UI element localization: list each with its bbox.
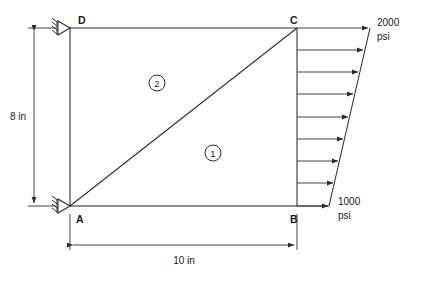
support-hatch-d-1: [52, 18, 57, 22]
node-label-c: C: [290, 14, 298, 26]
dimension-width: [70, 214, 297, 250]
plate-diagram: D C A B 2 1 8 in 10 in 2000 psi 1000 psi: [0, 0, 422, 282]
support-triangle-d: [58, 21, 70, 35]
element-label-1: 1: [210, 148, 215, 159]
support-hatch-a-2: [52, 200, 57, 204]
diagonal-ac: [70, 28, 297, 206]
node-label-b: B: [290, 213, 298, 225]
support-hatch-a-1: [52, 196, 57, 200]
plate-outline: [70, 28, 329, 206]
dimension-label-height: 8 in: [10, 111, 26, 122]
support-hatch-a-4: [52, 208, 57, 212]
support-hatch-d-2: [52, 22, 57, 26]
support-d: [52, 18, 70, 35]
support-hatch-d-4: [52, 30, 57, 34]
pressure-load-bc: [297, 28, 370, 206]
figure-canvas: D C A B 2 1 8 in 10 in 2000 psi 1000 psi: [0, 0, 422, 282]
dimension-label-width: 10 in: [173, 255, 195, 266]
support-triangle-a: [58, 199, 70, 213]
element-label-2: 2: [154, 78, 159, 89]
support-a: [52, 196, 70, 213]
load-label-top-unit: psi: [377, 31, 390, 42]
dimension-height: [28, 28, 56, 206]
load-label-bottom-unit: psi: [338, 210, 351, 221]
node-label-d: D: [78, 14, 86, 26]
load-label-top-value: 2000: [377, 17, 400, 28]
load-label-bottom-value: 1000: [338, 196, 361, 207]
node-label-a: A: [76, 213, 84, 225]
